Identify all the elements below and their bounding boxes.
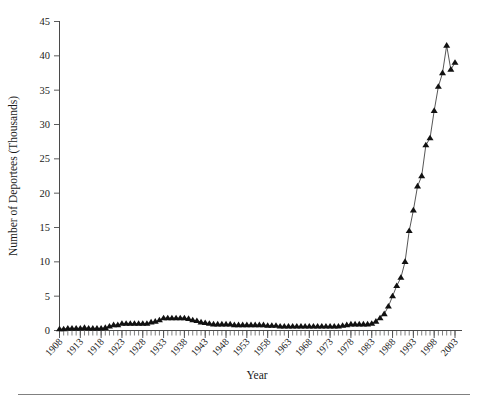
x-tick-label: 1948 (209, 336, 231, 358)
x-axis-title: Year (246, 369, 267, 381)
x-tick-label: 1908 (43, 336, 65, 358)
y-tick-label: 35 (40, 85, 51, 96)
data-point-marker (439, 70, 446, 76)
y-tick-label: 30 (40, 119, 51, 130)
y-tick-label: 40 (40, 50, 51, 61)
data-point-marker (397, 274, 404, 280)
data-point-marker (385, 303, 392, 309)
x-tick-label: 1988 (376, 336, 398, 358)
x-tick-label: 1913 (64, 336, 86, 358)
y-tick-label: 20 (40, 188, 51, 199)
x-tick-label: 1938 (168, 336, 190, 358)
data-point-marker (435, 83, 442, 89)
data-point-marker (389, 293, 396, 299)
x-tick-label: 1928 (126, 336, 148, 358)
data-point-marker (402, 258, 409, 264)
x-tick-label: 1918 (85, 336, 107, 358)
data-point-marker (431, 107, 438, 113)
data-point-marker (414, 183, 421, 189)
y-axis-ticks: 051015202530354045 (40, 16, 60, 336)
x-axis-minor-ticks (60, 331, 456, 336)
deportees-line-chart: Number of Deportees (Thousands) 05101520… (0, 0, 481, 402)
y-tick-label: 15 (40, 222, 51, 233)
y-tick-label: 10 (40, 256, 51, 267)
x-tick-label: 2003 (438, 336, 460, 358)
x-tick-label: 1968 (293, 336, 315, 358)
data-point-marker (410, 207, 417, 213)
data-point-marker (393, 282, 400, 288)
x-tick-label: 1923 (105, 336, 127, 358)
data-series (56, 42, 459, 331)
data-point-marker (427, 135, 434, 141)
x-tick-label: 1983 (355, 336, 377, 358)
x-tick-label: 1953 (230, 336, 252, 358)
x-tick-label: 1998 (418, 336, 440, 358)
data-point-marker (422, 142, 429, 148)
x-axis-tick-labels: 1908191319181923192819331938194319481953… (43, 336, 460, 358)
y-axis-title: Number of Deportees (Thousands) (7, 96, 20, 256)
chart-figure: Number of Deportees (Thousands) 05101520… (0, 0, 481, 402)
data-point-marker (418, 173, 425, 179)
x-tick-label: 1993 (397, 336, 419, 358)
data-point-marker (443, 42, 450, 48)
data-point-marker (381, 311, 388, 317)
data-point-marker (447, 66, 454, 72)
y-tick-label: 0 (45, 325, 50, 336)
y-tick-label: 25 (40, 153, 51, 164)
x-tick-label: 1958 (251, 336, 273, 358)
data-point-marker (406, 227, 413, 233)
x-tick-label: 1933 (147, 336, 169, 358)
y-tick-label: 5 (45, 291, 50, 302)
data-point-marker (452, 59, 459, 65)
x-tick-label: 1978 (334, 336, 356, 358)
x-tick-label: 1943 (189, 336, 211, 358)
x-tick-label: 1963 (272, 336, 294, 358)
y-tick-label: 45 (40, 16, 51, 27)
x-tick-label: 1973 (314, 336, 336, 358)
